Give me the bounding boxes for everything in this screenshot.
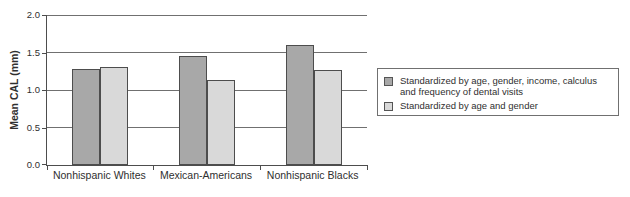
y-axis-tick — [42, 128, 47, 129]
y-tick-label: 1.0 — [16, 84, 40, 96]
y-axis-tick — [42, 53, 47, 54]
legend-marker-series1 — [384, 102, 393, 111]
y-axis-tick — [42, 15, 47, 16]
legend-label-series0: Standardized by age, gender, income, cal… — [400, 75, 614, 97]
bar-chart-figure: Mean CAL (mm) 0.00.51.01.52.0 Nonhispani… — [0, 0, 630, 197]
bar-series0-nonhispanic-blacks — [286, 45, 314, 165]
legend: Standardized by age, gender, income, cal… — [377, 68, 619, 116]
gridline — [47, 52, 367, 53]
legend-item-0: Standardized by age, gender, income, cal… — [384, 75, 614, 97]
legend-marker-series0 — [384, 77, 393, 86]
bar-series0-mexican-americans — [179, 56, 207, 165]
x-axis-labels: Nonhispanic WhitesMexican-AmericansNonhi… — [46, 169, 366, 185]
bar-series1-nonhispanic-whites — [100, 67, 128, 165]
y-tick-label: 1.5 — [16, 47, 40, 59]
y-tick-label: 0.5 — [16, 122, 40, 134]
y-axis-tick-labels: 0.00.51.01.52.0 — [16, 15, 40, 165]
bar-series0-nonhispanic-whites — [72, 69, 100, 165]
legend-label-series1: Standardized by age and gender — [400, 100, 538, 111]
plot-area — [46, 15, 367, 166]
y-tick-label: 2.0 — [16, 9, 40, 21]
x-category-label: Nonhispanic Blacks — [248, 169, 378, 182]
gridline — [47, 15, 367, 16]
bar-series1-nonhispanic-blacks — [314, 70, 342, 165]
y-axis-tick — [42, 90, 47, 91]
legend-item-1: Standardized by age and gender — [384, 100, 614, 111]
bar-series1-mexican-americans — [207, 80, 235, 166]
